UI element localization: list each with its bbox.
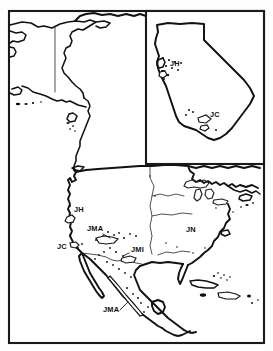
california-inset-layer: JH JC	[146, 11, 264, 164]
map-label-jn-east: JN	[186, 225, 196, 234]
map-label-jc-california: JC	[57, 242, 67, 251]
inset-label-jh: JH	[170, 59, 180, 68]
map-label-jma-southwest: JMA	[87, 224, 104, 233]
map-label-jma-mexico: JMA	[103, 305, 120, 314]
inset-label-jc: JC	[210, 110, 220, 119]
distribution-map-figure: JH JMA JC JMI JN JMA	[0, 0, 273, 351]
inset-frame	[146, 11, 264, 164]
map-label-jmi-texas: JMI	[131, 245, 144, 254]
map-label-jh-west: JH	[74, 205, 84, 214]
